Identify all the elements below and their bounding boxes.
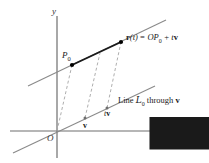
vector-tv-label: tv bbox=[104, 110, 110, 118]
point-p0-subscript: 0 bbox=[68, 55, 71, 62]
equation-plus: + bbox=[162, 32, 171, 42]
line-l0-caption: Line L0 through v bbox=[118, 96, 180, 107]
point-rt-marker bbox=[119, 40, 123, 44]
x-axis-label: x bbox=[176, 122, 180, 131]
equation-tv-vector: v bbox=[174, 32, 178, 42]
caption-word-line: Line bbox=[118, 95, 136, 105]
caption-vector-v: v bbox=[175, 95, 179, 105]
equation-equals: = bbox=[138, 32, 147, 42]
origin-label: O bbox=[47, 134, 54, 143]
vector-v-label: v bbox=[83, 122, 87, 130]
bold-segment-p0-to-rt bbox=[72, 42, 121, 65]
equation-op0-subscript: 0 bbox=[159, 38, 162, 44]
dashed-origin-to-p0 bbox=[57, 65, 72, 131]
equation-rt: r(t) = OP0 + tv bbox=[126, 33, 178, 44]
point-p0-marker bbox=[70, 63, 74, 67]
diagram-canvas bbox=[0, 0, 209, 163]
equation-op0-overarrow-group: OP0 bbox=[147, 33, 162, 44]
dashed-v-to-upper bbox=[85, 53, 100, 118]
vector-line-diagram: y x O P0 v tv r(t) = OP0 + tv Line L0 th… bbox=[0, 0, 209, 163]
point-v-tick bbox=[84, 117, 87, 120]
point-p0-label: P0 bbox=[62, 51, 71, 62]
caption-word-through: through bbox=[145, 95, 176, 105]
y-axis-label: y bbox=[52, 7, 56, 16]
vector-tv-vector: v bbox=[106, 109, 110, 118]
